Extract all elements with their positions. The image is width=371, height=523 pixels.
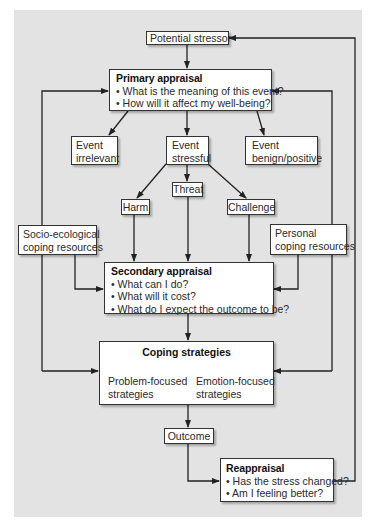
personal-line2: coping resources bbox=[275, 240, 342, 253]
secondary-appraisal-bullet: What can I do? bbox=[111, 278, 267, 291]
reappraisal-node: Reappraisal Has the stress changed? Am I… bbox=[220, 458, 334, 502]
event-stressful-line2: stressful bbox=[172, 152, 203, 165]
secondary-appraisal-node: Secondary appraisal What can I do? What … bbox=[104, 262, 274, 314]
problem-focused-line2: strategies bbox=[108, 388, 187, 401]
socio-ecological-line1: Socio-ecological bbox=[23, 228, 92, 241]
event-irrelevant-line2: irrelevant bbox=[76, 152, 113, 165]
emotion-focused-line2: strategies bbox=[196, 388, 275, 401]
event-benign-node: Event benign/positive bbox=[245, 136, 318, 165]
personal-line1: Personal bbox=[275, 227, 342, 240]
primary-appraisal-bullet: What is the meaning of this event? bbox=[116, 85, 265, 98]
reappraisal-bullet: Am I feeling better? bbox=[226, 487, 328, 500]
event-irrelevant-node: Event irrelevant bbox=[71, 136, 118, 165]
personal-resources-node: Personal coping resources bbox=[270, 224, 347, 255]
potential-stressor-label: Potential stressor bbox=[150, 32, 231, 44]
reappraisal-title: Reappraisal bbox=[226, 462, 328, 475]
event-benign-line2: benign/positive bbox=[252, 152, 311, 165]
event-irrelevant-line1: Event bbox=[76, 139, 113, 152]
event-stressful-line1: Event bbox=[172, 139, 203, 152]
socio-ecological-line2: coping resources bbox=[23, 241, 92, 254]
coping-strategies-node: Coping strategies Problem-focused strate… bbox=[99, 341, 274, 405]
problem-focused-strategies: Problem-focused strategies bbox=[108, 375, 187, 400]
event-benign-line1: Event bbox=[252, 139, 311, 152]
event-stressful-node: Event stressful bbox=[166, 136, 209, 165]
secondary-appraisal-bullet: What do I expect the outcome to be? bbox=[111, 303, 267, 316]
socio-ecological-resources-node: Socio-ecological coping resources bbox=[18, 225, 97, 255]
primary-appraisal-bullet: How will it affect my well-being? bbox=[116, 97, 265, 110]
outcome-label: Outcome bbox=[168, 430, 211, 442]
secondary-appraisal-bullet: What will it cost? bbox=[111, 290, 267, 303]
challenge-label: Challenge bbox=[228, 201, 275, 213]
emotion-focused-strategies: Emotion-focused strategies bbox=[196, 375, 275, 400]
primary-appraisal-title: Primary appraisal bbox=[116, 72, 265, 85]
potential-stressor-node: Potential stressor bbox=[146, 31, 229, 45]
harm-label: Harm bbox=[123, 201, 149, 213]
problem-focused-line1: Problem-focused bbox=[108, 375, 187, 388]
outcome-node: Outcome bbox=[164, 428, 214, 444]
coping-strategies-title: Coping strategies bbox=[100, 346, 273, 359]
threat-node: Threat bbox=[172, 182, 203, 197]
secondary-appraisal-title: Secondary appraisal bbox=[111, 265, 267, 278]
emotion-focused-line1: Emotion-focused bbox=[196, 375, 275, 388]
primary-appraisal-node: Primary appraisal What is the meaning of… bbox=[109, 69, 272, 111]
reappraisal-bullet: Has the stress changed? bbox=[226, 475, 328, 488]
harm-node: Harm bbox=[121, 199, 150, 215]
threat-label: Threat bbox=[173, 183, 203, 195]
challenge-node: Challenge bbox=[227, 199, 275, 215]
